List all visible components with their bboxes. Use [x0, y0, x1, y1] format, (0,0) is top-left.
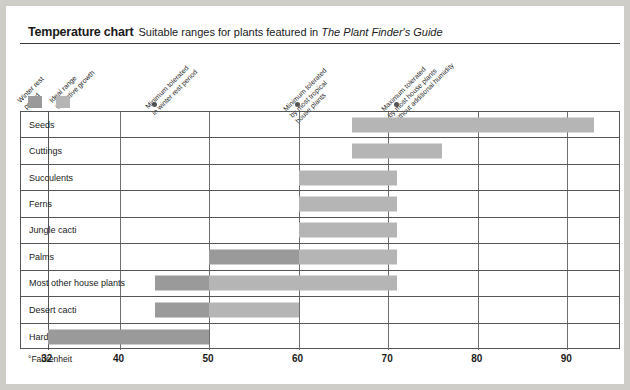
title-main: Temperature chart [28, 25, 133, 39]
bar-ideal-range [209, 302, 299, 317]
bar-ideal-range [352, 144, 442, 159]
chart-row: Cuttings [21, 138, 619, 164]
bar-winter-rest [155, 276, 209, 291]
chart-row: Hardy bulbs before flowering [21, 324, 619, 350]
x-tick-50: 50 [202, 353, 213, 364]
x-tick-60: 60 [292, 353, 303, 364]
chart-plot-area: SeedsCuttingsSucculentsFernsJungle cacti… [20, 111, 620, 349]
page-title: Temperature chartSuitable ranges for pla… [28, 22, 443, 40]
row-label: Seeds [29, 120, 55, 130]
chart-row: Most other house plants [21, 271, 619, 297]
header-divider [20, 43, 620, 44]
bar-ideal-range [209, 276, 397, 291]
x-tick-70: 70 [382, 353, 393, 364]
bar-winter-rest [48, 329, 209, 344]
chart-row: Desert cacti [21, 297, 619, 323]
row-label: Palms [29, 252, 54, 262]
bar-winter-rest [209, 249, 299, 264]
row-label: Desert cacti [29, 305, 77, 315]
chart-row: Ferns [21, 191, 619, 217]
x-tick-80: 80 [471, 353, 482, 364]
x-tick-90: 90 [561, 353, 572, 364]
legend-swatch-winter-rest [28, 96, 42, 108]
row-label: Most other house plants [29, 278, 125, 288]
bar-ideal-range [299, 170, 398, 185]
x-tick-40: 40 [113, 353, 124, 364]
subtitle-text: Suitable ranges for plants featured in [138, 26, 321, 38]
callout-label-min-winter-rest: Minimum toleratedin winter rest period [144, 62, 199, 117]
row-label: Ferns [29, 199, 52, 209]
row-label: Jungle cacti [29, 225, 77, 235]
chart-card: Temperature chartSuitable ranges for pla… [6, 6, 624, 384]
row-label: Succulents [29, 173, 73, 183]
legend-swatch-ideal-range [56, 96, 70, 108]
bar-ideal-range [299, 223, 398, 238]
subtitle-book-title: The Plant Finder's Guide [321, 26, 442, 38]
bar-ideal-range [352, 117, 594, 132]
x-tick-32: 32 [41, 353, 52, 364]
x-axis: °Fahrenheit 32405060708090 [20, 349, 620, 373]
bar-ideal-range [299, 249, 398, 264]
chart-row: Seeds [21, 112, 619, 138]
bar-winter-rest [155, 302, 209, 317]
chart-row: Succulents [21, 165, 619, 191]
row-label: Cuttings [29, 146, 62, 156]
bar-ideal-range [299, 197, 398, 212]
chart-row: Jungle cacti [21, 218, 619, 244]
chart-row: Palms [21, 244, 619, 270]
title-subtitle: Suitable ranges for plants featured in T… [138, 26, 442, 38]
